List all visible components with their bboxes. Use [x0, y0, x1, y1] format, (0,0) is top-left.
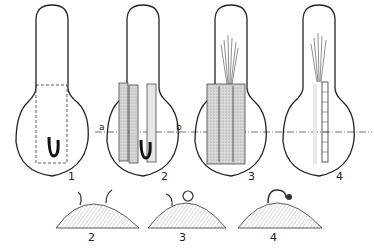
flask-panel-4: 4	[283, 5, 354, 183]
panel-label-4: 4	[336, 170, 343, 183]
panel-label-2: 2	[161, 170, 168, 183]
section-label-b: b	[176, 122, 182, 132]
dome-panel-3: 3	[148, 191, 226, 244]
dome-label-3: 3	[179, 231, 186, 244]
dome-label-4: 4	[270, 231, 277, 244]
dome-panel-2: 2	[56, 190, 139, 244]
panel-label-3: 3	[248, 170, 255, 183]
panel-label-1: 1	[68, 170, 75, 183]
figure-canvas: a b 1 2 3	[0, 0, 374, 248]
segment-marks	[322, 92, 328, 152]
flask-panel-3: 3	[195, 5, 266, 183]
filament-tuft	[221, 35, 238, 84]
dome-panel-4: 4	[238, 190, 322, 244]
section-label-a: a	[99, 122, 105, 132]
flask-panel-2: 2	[107, 5, 178, 183]
dome-label-2: 2	[88, 231, 95, 244]
flask-panel-1: 1	[16, 5, 88, 183]
filament-tuft	[311, 33, 326, 82]
